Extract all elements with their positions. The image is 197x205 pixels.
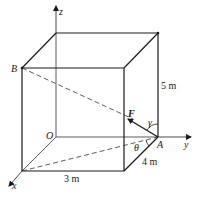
line-b-to-a-dashed <box>22 68 133 119</box>
top-right-depth-edge <box>124 33 158 68</box>
theta-label: θ <box>134 142 139 153</box>
x-axis-label: x <box>11 180 17 191</box>
point-b-label: B <box>11 63 17 74</box>
gamma-label: γ <box>148 117 153 128</box>
top-left-depth-edge <box>22 33 56 68</box>
left-bottom-depth-edge <box>22 137 56 171</box>
point-a-label: A <box>156 139 164 150</box>
width-dimension-label: 3 m <box>64 173 80 184</box>
top-corner-dot <box>157 32 160 35</box>
box-force-diagram: z y x B O A F γ θ 5 m 3 m 4 m <box>0 0 197 205</box>
z-axis-label: z <box>58 6 63 17</box>
force-f-arrow <box>128 119 158 137</box>
origin-o-label: O <box>46 130 53 141</box>
height-dimension-label: 5 m <box>161 80 177 91</box>
depth-dimension-label: 4 m <box>142 156 158 167</box>
force-f-label: F <box>127 108 135 119</box>
theta-angle-arc <box>146 140 149 146</box>
y-axis-label: y <box>183 139 189 150</box>
point-b-dot <box>21 67 24 70</box>
dashed-lines <box>22 68 158 171</box>
